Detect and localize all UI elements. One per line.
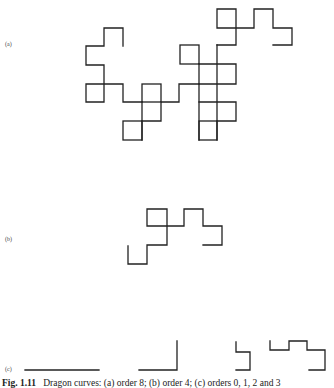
dragon-curve-figure bbox=[0, 0, 334, 388]
figure-number: Fig. 1.11 bbox=[2, 378, 36, 388]
dragon-curve-order-8 bbox=[86, 9, 292, 140]
dragon-curve-order-2 bbox=[236, 342, 250, 370]
figure-caption: Fig. 1.11 Dragon curves: (a) order 8; (b… bbox=[2, 378, 281, 388]
dragon-curves-orders-0-3 bbox=[25, 341, 325, 370]
dragon-curve-order-4 bbox=[128, 209, 222, 264]
dragon-curve-order-1 bbox=[139, 341, 177, 370]
dragon-curve-order-3 bbox=[270, 341, 325, 370]
figure-caption-text: Dragon curves: (a) order 8; (b) order 4;… bbox=[43, 378, 280, 388]
